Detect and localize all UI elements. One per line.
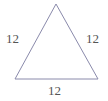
- left-side-length-label: 12: [6, 32, 19, 45]
- right-side-length-label: 12: [86, 32, 99, 45]
- triangle-figure: 12 12 12: [0, 0, 108, 101]
- bottom-side-length-label: 12: [48, 84, 61, 97]
